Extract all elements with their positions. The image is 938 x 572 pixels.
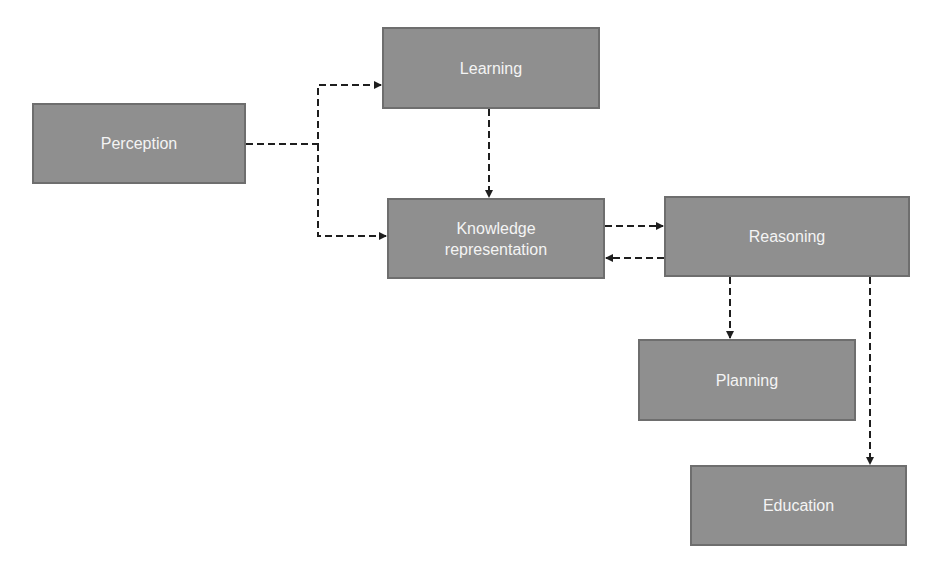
node-perception[interactable]: Perception [32,103,246,184]
edge-perception-to-knowledge [318,144,386,236]
node-learning[interactable]: Learning [382,27,600,109]
node-label: Knowledge representation [445,218,547,260]
node-reasoning[interactable]: Reasoning [664,196,910,277]
edge-perception-to-learning [246,85,381,144]
node-planning[interactable]: Planning [638,339,856,421]
node-label: Education [763,495,834,516]
node-education[interactable]: Education [690,465,907,546]
node-knowledge-representation[interactable]: Knowledge representation [387,198,605,279]
node-label: Perception [101,133,178,154]
node-label: Learning [460,58,522,79]
node-label: Reasoning [749,226,826,247]
node-label: Planning [716,370,778,391]
